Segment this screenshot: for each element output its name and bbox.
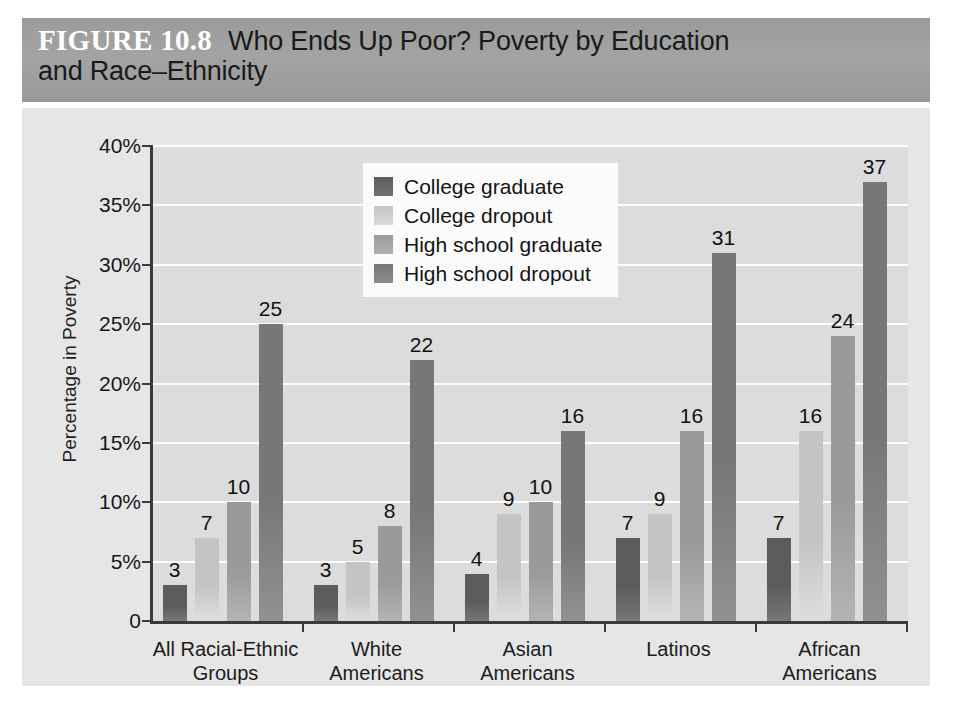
bar: 3 [163, 585, 187, 621]
y-axis-tick-label: 25% [99, 312, 141, 336]
bar: 7 [195, 538, 219, 621]
x-axis-category-label: AsianAmericans [480, 637, 574, 686]
bar-value-label: 37 [863, 155, 886, 179]
x-axis-category-label: All Racial-EthnicGroups [153, 637, 299, 686]
y-axis-tick-label: 35% [99, 193, 141, 217]
bar-value-label: 8 [384, 499, 396, 523]
chart-legend: College graduateCollege dropoutHigh scho… [363, 163, 618, 297]
legend-label: High school graduate [404, 233, 602, 257]
y-axis-tick-label: 0 [129, 609, 141, 633]
bar: 10 [529, 502, 553, 621]
bar: 31 [712, 253, 736, 621]
y-axis-tick-label: 5% [111, 550, 141, 574]
y-axis-tick [142, 204, 153, 206]
y-axis-tick-label: 15% [99, 431, 141, 455]
bar: 9 [648, 514, 672, 621]
y-axis-tick [142, 383, 153, 385]
legend-item: High school dropout [374, 259, 602, 288]
bar-value-label: 7 [622, 511, 634, 535]
figure-root: FIGURE 10.8Who Ends Up Poor? Poverty by … [0, 0, 967, 702]
bar: 22 [410, 360, 434, 621]
bar-value-label: 16 [799, 404, 822, 428]
bar: 25 [259, 324, 283, 621]
bar: 3 [314, 585, 338, 621]
y-axis-tick [142, 264, 153, 266]
y-axis-tick [142, 561, 153, 563]
bar-value-label: 10 [529, 475, 552, 499]
bar: 24 [831, 336, 855, 621]
bar-value-label: 3 [169, 558, 181, 582]
bar: 16 [799, 431, 823, 621]
bar-value-label: 16 [561, 404, 584, 428]
x-axis-group-tick [453, 621, 455, 632]
bar-value-label: 24 [831, 309, 854, 333]
x-axis-label-line: Asian [480, 637, 574, 661]
bar: 8 [378, 526, 402, 621]
x-axis-label-line: Americans [480, 661, 574, 685]
legend-item: College graduate [374, 172, 602, 201]
bar-value-label: 31 [712, 226, 735, 250]
bar: 7 [616, 538, 640, 621]
bar: 16 [680, 431, 704, 621]
y-axis-tick [142, 501, 153, 503]
bar-value-label: 3 [320, 558, 332, 582]
bar-value-label: 22 [410, 333, 433, 357]
bar-value-label: 9 [654, 487, 666, 511]
legend-item: College dropout [374, 201, 602, 230]
bar: 9 [497, 514, 521, 621]
x-axis-group-tick [755, 621, 757, 632]
x-axis-label-line: White [329, 637, 423, 661]
legend-swatch-icon [374, 177, 393, 196]
y-axis-tick [142, 323, 153, 325]
x-axis-label-line: Latinos [646, 637, 711, 661]
x-axis-group-tick [604, 621, 606, 632]
y-axis-tick [142, 145, 153, 147]
bar-value-label: 7 [773, 511, 785, 535]
legend-label: College graduate [404, 175, 564, 199]
bar: 5 [346, 562, 370, 621]
bar-value-label: 4 [471, 547, 483, 571]
y-axis-tick-label: 40% [99, 134, 141, 158]
bar-value-label: 9 [503, 487, 515, 511]
legend-swatch-icon [374, 235, 393, 254]
x-axis-category-label: AfricanAmericans [782, 637, 876, 686]
bar: 16 [561, 431, 585, 621]
bar-value-label: 7 [201, 511, 213, 535]
y-axis-tick [142, 620, 153, 622]
bar-value-label: 16 [680, 404, 703, 428]
y-axis-tick-label: 10% [99, 490, 141, 514]
x-axis-label-line: All Racial-Ethnic [153, 637, 299, 661]
x-axis-label-line: Americans [329, 661, 423, 685]
bar: 10 [227, 502, 251, 621]
bar: 37 [863, 182, 887, 621]
x-axis-label-line: African [782, 637, 876, 661]
legend-item: High school graduate [374, 230, 602, 259]
y-axis-title: Percentage in Poverty [59, 209, 81, 529]
x-axis-label-line: Groups [153, 661, 299, 685]
legend-swatch-icon [374, 206, 393, 225]
bar-group: 371025 [153, 146, 304, 621]
bar-value-label: 5 [352, 535, 364, 559]
bar-group: 7162437 [757, 146, 908, 621]
figure-banner-line-2: and Race–Ethnicity [38, 57, 930, 85]
bar-group: 791631 [606, 146, 757, 621]
x-axis-category-label: WhiteAmericans [329, 637, 423, 686]
bar-value-label: 25 [259, 297, 282, 321]
y-axis-tick-label: 20% [99, 372, 141, 396]
legend-label: High school dropout [404, 262, 591, 286]
x-axis-group-tick [906, 621, 908, 632]
bar: 7 [767, 538, 791, 621]
figure-title-line-2: and Race–Ethnicity [38, 56, 267, 86]
x-axis-category-label: Latinos [646, 637, 711, 661]
y-axis-tick [142, 442, 153, 444]
legend-label: College dropout [404, 204, 552, 228]
legend-swatch-icon [374, 264, 393, 283]
figure-title-line-1: Who Ends Up Poor? Poverty by Education [228, 26, 729, 56]
figure-banner-line-1: FIGURE 10.8Who Ends Up Poor? Poverty by … [38, 25, 930, 55]
x-axis-label-line: Americans [782, 661, 876, 685]
y-axis-tick-label: 30% [99, 253, 141, 277]
figure-number-label: FIGURE 10.8 [38, 24, 212, 56]
x-axis-group-tick [302, 621, 304, 632]
figure-banner: FIGURE 10.8Who Ends Up Poor? Poverty by … [22, 18, 930, 102]
bar-value-label: 10 [227, 475, 250, 499]
